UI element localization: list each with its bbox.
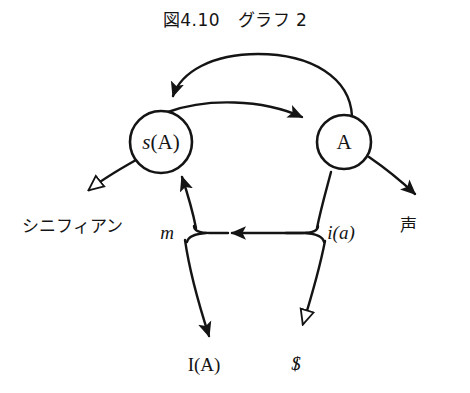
edge-to-voice (369, 157, 415, 194)
junction-right-lower (306, 233, 324, 242)
edge-label-barred-subject: $ (291, 353, 301, 375)
edge-label-I-of-A: I(A) (188, 354, 221, 376)
node-label-s-of-A-prefix: s (142, 130, 150, 154)
edge-label-signifiant: シニフィアン (22, 212, 123, 237)
node-label-A: A (336, 130, 351, 155)
edge-to-barred-subject (303, 241, 325, 324)
node-label-s-of-A: s(A) (142, 130, 179, 155)
edge-signifying-chain (168, 102, 302, 117)
barred-s-glyph: $ (291, 353, 301, 375)
edge-to-signifiant (89, 160, 136, 190)
figure-page: 図4.10 グラフ 2 (0, 0, 470, 393)
node-label-s-of-A-suffix: (A) (151, 130, 180, 154)
junction-right-upper (286, 226, 318, 233)
edge-to-I-of-A (185, 240, 209, 336)
edge-retroaction-arc (173, 54, 352, 116)
node-label-A-text: A (336, 130, 351, 154)
edge-i-of-a-to-A (317, 172, 331, 228)
edge-label-i-of-a: i(a) (327, 222, 354, 244)
junction-left-upper (194, 226, 228, 233)
edge-label-m: m (160, 222, 174, 244)
graph-diagram (0, 0, 470, 393)
edge-label-voice: 声 (400, 211, 417, 236)
junction-left-lower (187, 233, 206, 242)
edge-m-to-sA (182, 177, 196, 228)
